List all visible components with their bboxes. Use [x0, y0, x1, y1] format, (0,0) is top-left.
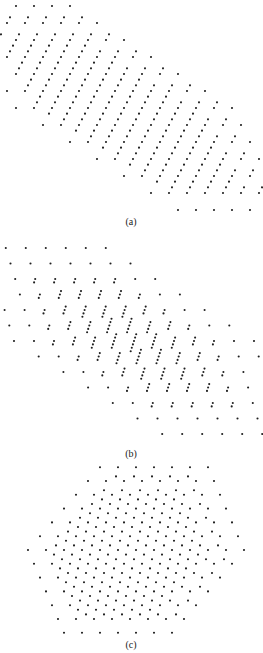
lattice-dot — [129, 494, 131, 496]
lattice-dot — [51, 39, 53, 41]
lattice-dot — [213, 107, 215, 109]
lattice-dot — [86, 331, 88, 333]
lattice-dot — [90, 33, 92, 35]
lattice-dot — [52, 343, 54, 345]
lattice-dot — [171, 466, 173, 468]
lattice-dot — [133, 475, 135, 477]
lattice-dot — [36, 33, 38, 35]
lattice-dot — [154, 337, 156, 339]
lattice-dot — [33, 5, 35, 7]
lattice-dot — [225, 508, 227, 510]
lattice-dot — [210, 147, 212, 149]
panel-b-caption: (b) — [111, 449, 151, 459]
lattice-dot — [114, 90, 116, 92]
lattice-dot — [113, 281, 115, 283]
lattice-dot — [135, 549, 137, 551]
lattice-dot — [109, 503, 111, 505]
lattice-dot — [87, 563, 89, 565]
lattice-dot — [67, 328, 69, 330]
lattice-dot — [201, 535, 203, 537]
lattice-dot — [123, 39, 125, 41]
lattice-dot — [81, 16, 83, 18]
lattice-dot — [101, 540, 103, 542]
lattice-dot — [240, 158, 242, 160]
lattice-dot — [171, 186, 173, 188]
lattice-dot — [150, 192, 152, 194]
lattice-dot — [122, 371, 124, 373]
lattice-dot — [211, 572, 213, 574]
lattice-dot — [84, 79, 86, 81]
lattice-dot — [117, 118, 119, 120]
lattice-dot — [151, 600, 153, 602]
lattice-dot — [75, 577, 77, 579]
lattice-dot — [93, 535, 95, 537]
lattice-dot — [153, 118, 155, 120]
lattice-dot — [171, 347, 173, 349]
lattice-dot — [48, 79, 50, 81]
lattice-dot — [187, 558, 189, 560]
lattice-dot — [175, 362, 177, 364]
lattice-dot — [126, 331, 128, 333]
lattice-dot — [29, 262, 31, 264]
lattice-dot — [221, 433, 223, 435]
lattice-dot — [21, 62, 23, 64]
lattice-dot — [90, 67, 92, 69]
lattice-dot — [69, 262, 71, 264]
lattice-dot — [129, 130, 131, 132]
lattice-dot — [146, 390, 148, 392]
lattice-dot — [93, 130, 95, 132]
lattice-dot — [186, 192, 188, 194]
lattice-dot — [138, 79, 140, 81]
lattice-dot — [96, 124, 98, 126]
lattice-dot — [159, 141, 161, 143]
lattice-dot — [185, 567, 187, 569]
lattice-dot — [163, 544, 165, 546]
lattice-dot — [222, 371, 224, 373]
lattice-dot — [107, 386, 109, 388]
lattice-dot — [103, 613, 105, 615]
lattice-dot — [39, 96, 41, 98]
lattice-dot — [103, 531, 105, 533]
lattice-dot — [127, 503, 129, 505]
lattice-dot — [216, 417, 218, 419]
lattice-dot — [105, 306, 107, 308]
lattice-dot — [114, 124, 116, 126]
lattice-dot — [201, 577, 203, 579]
lattice-dot — [63, 508, 65, 510]
lattice-dot — [101, 581, 103, 583]
lattice-dot — [207, 466, 209, 468]
lattice-dot — [188, 383, 190, 385]
lattice-dot — [132, 56, 134, 58]
lattice-dot — [226, 390, 228, 392]
lattice-dot — [192, 181, 194, 183]
lattice-dot — [171, 152, 173, 154]
lattice-dot — [183, 130, 185, 132]
lattice-dot — [249, 209, 251, 211]
lattice-dot — [77, 526, 79, 528]
lattice-dot — [153, 549, 155, 551]
lattice-dot — [181, 544, 183, 546]
lattice-dot — [162, 67, 164, 69]
lattice-dot — [6, 90, 8, 92]
lattice-dot — [96, 56, 98, 58]
lattice-dot — [114, 278, 116, 280]
lattice-dot — [123, 480, 125, 482]
lattice-dot — [84, 45, 86, 47]
lattice-dot — [145, 586, 147, 588]
lattice-dot — [135, 362, 137, 364]
lattice-dot — [67, 572, 69, 574]
lattice-dot — [57, 577, 59, 579]
lattice-dot — [131, 526, 133, 528]
lattice-dot — [33, 39, 35, 41]
lattice-dot — [99, 50, 101, 52]
lattice-dot — [121, 613, 123, 615]
lattice-dot — [127, 328, 129, 330]
lattice-dot — [93, 281, 95, 283]
lattice-dot — [171, 84, 173, 86]
lattice-dot — [221, 374, 223, 376]
lattice-dot — [89, 595, 91, 597]
lattice-dot — [247, 386, 249, 388]
lattice-dot — [6, 22, 8, 24]
lattice-dot — [63, 632, 65, 634]
lattice-dot — [25, 247, 27, 249]
